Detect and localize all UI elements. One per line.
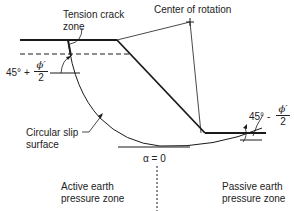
circular-slip-label-line1: Circular slip: [26, 127, 78, 138]
radius-line-top: [117, 22, 190, 40]
passive-angle-prefix: 45° -: [249, 111, 270, 122]
circular-slip-surface: [68, 40, 262, 146]
active-angle-fraction: ϕ′ 2: [34, 60, 48, 83]
center-of-rotation-label: Center of rotation: [154, 4, 231, 15]
passive-angle-numerator: ϕ′: [276, 104, 290, 114]
active-angle-numerator: ϕ′: [34, 60, 48, 70]
tension-crack-zone-label: zone: [63, 21, 85, 32]
passive-zone-label-line1: Passive earth: [222, 181, 283, 192]
active-angle-arrowhead: [66, 56, 71, 60]
center-of-rotation-marker: [186, 18, 194, 26]
radius-line-toe: [190, 22, 201, 133]
slope-diagram: [0, 0, 294, 211]
active-angle-arc: [61, 56, 71, 73]
passive-zone-label-line2: pressure zone: [222, 193, 285, 204]
active-zone-label-line1: Active earth: [61, 181, 114, 192]
circular-slip-label-line2: surface: [26, 139, 59, 150]
alpha-zero-label: α = 0: [143, 153, 166, 164]
tension-crack-label: Tension crack: [63, 9, 124, 20]
active-angle-denominator: 2: [34, 73, 48, 83]
slope-face-line: [117, 40, 205, 133]
active-angle-prefix: 45° +: [6, 67, 30, 78]
passive-angle-arrowhead: [243, 124, 247, 129]
active-zone-label-line2: pressure zone: [61, 193, 124, 204]
passive-angle-fraction: ϕ′ 2: [276, 104, 290, 127]
passive-angle-denominator: 2: [276, 117, 290, 127]
